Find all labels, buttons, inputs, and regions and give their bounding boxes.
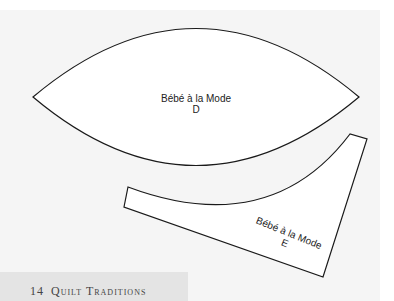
page-footer: 14Quilt Traditions xyxy=(30,284,146,299)
pattern-pieces-illustration xyxy=(0,0,394,301)
book-title: Quilt Traditions xyxy=(51,284,146,298)
piece-d-letter: D xyxy=(146,104,246,115)
page-number: 14 xyxy=(30,284,44,298)
piece-d-title: Bébé à la Mode xyxy=(146,93,246,104)
pattern-piece-d-label: Bébé à la Mode D xyxy=(146,93,246,115)
